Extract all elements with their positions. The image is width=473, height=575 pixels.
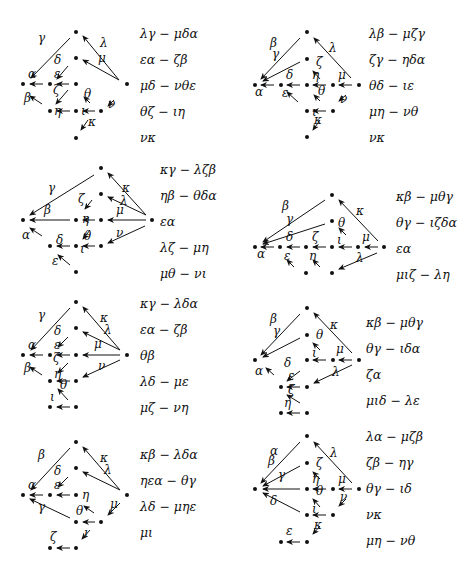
vertex-dot <box>279 411 283 415</box>
arrow-label: λ <box>104 463 112 477</box>
relation-text: ζα <box>366 367 381 382</box>
arrow-label: δ <box>286 230 293 244</box>
vertex-dot <box>305 385 309 389</box>
vertex-dot <box>74 353 78 357</box>
arrow-label: θ <box>84 87 91 101</box>
vertex-dot <box>99 244 103 248</box>
vertex-dot <box>74 244 78 248</box>
vertex-dot <box>305 306 309 310</box>
arrow-label: α <box>28 67 36 81</box>
vertex-dot <box>48 405 52 409</box>
arrow-label: μ <box>110 497 118 511</box>
arrow-label: ζ <box>53 83 60 97</box>
vertex-dot <box>305 358 309 362</box>
vertex-dot <box>279 385 283 389</box>
relation-text: λδ − με <box>140 374 189 389</box>
arrow-label: δ <box>54 53 61 67</box>
arrow <box>58 255 70 265</box>
vertex-dot <box>331 487 335 491</box>
vertex-dot <box>150 218 154 222</box>
vertex-dot <box>21 82 25 86</box>
arrow-label: ε <box>282 86 288 100</box>
arrow <box>287 92 298 102</box>
arrow-label: η <box>54 104 61 118</box>
vertex-dot <box>74 270 78 274</box>
quiver-graph <box>0 295 236 440</box>
vertex-dot <box>382 245 386 249</box>
vertex-dot <box>74 546 78 550</box>
arrow-label: ε <box>284 249 290 263</box>
vertex-dot <box>330 219 334 223</box>
arrow-label: θ <box>316 328 323 342</box>
vertex-dot <box>48 379 52 383</box>
relation-text: μζ − νη <box>140 400 188 415</box>
arrow-label: ν <box>116 226 123 240</box>
vertex-dot <box>74 300 78 304</box>
relation-text: λα − μζβ <box>366 429 423 444</box>
arrow-label: ν <box>340 92 347 106</box>
arrow-label: ζ <box>50 530 57 544</box>
arrow-label: μ <box>116 203 124 217</box>
arrow-label: α <box>28 338 36 352</box>
relation-text: εα − ζβ <box>140 322 188 337</box>
arrow-label: μ <box>338 472 346 486</box>
arrow-label: ε <box>54 478 60 492</box>
vertex-dot <box>99 192 103 196</box>
arrow <box>261 314 300 355</box>
vertex-dot <box>99 166 103 170</box>
arrow-label: ζ <box>316 55 323 69</box>
vertex-dot <box>125 493 129 497</box>
relation-text: ζγ − ηδα <box>369 52 425 67</box>
vertex-dot <box>48 493 52 497</box>
vertex-dot <box>74 520 78 524</box>
vertex-dot <box>99 109 103 113</box>
arrow-label: ζ <box>78 192 85 206</box>
vertex-dot <box>357 83 361 87</box>
arrow-label: η <box>82 488 89 502</box>
arrow-label: η <box>284 396 291 410</box>
arrow-label: α <box>22 228 30 242</box>
relation-text: λζ − μη <box>160 240 209 255</box>
arrow-label: ε <box>288 369 294 383</box>
vertex-dot <box>74 493 78 497</box>
arrow-label: λ <box>356 251 364 265</box>
vertex-dot <box>305 109 309 113</box>
arrow-label: β <box>44 203 51 217</box>
arrow <box>108 226 145 243</box>
arrow-label: κ <box>314 518 322 532</box>
arrow-label: λ <box>329 41 337 55</box>
arrow-label: λ <box>330 446 338 460</box>
vertex-dot <box>21 218 25 222</box>
relation-text: μθ − νι <box>160 266 207 281</box>
vertex-dot <box>304 271 308 275</box>
arrow-label: λ <box>332 365 340 379</box>
arrow-label: β <box>24 361 31 375</box>
arrow <box>81 120 88 130</box>
relation-text: θζ − ιη <box>140 104 185 119</box>
vertex-dot <box>21 353 25 357</box>
arrow-label: η <box>82 212 89 226</box>
vertex-dot <box>305 30 309 34</box>
vertex-dot <box>74 405 78 409</box>
relation-text: ηεα − θγ <box>140 473 196 488</box>
vertex-dot <box>331 83 335 87</box>
arrow-label: κ <box>356 204 364 218</box>
relation-text: θβ <box>140 348 155 363</box>
arrow-label: μ <box>362 230 370 244</box>
relation-text: μδ − νθε <box>140 78 196 93</box>
relation-text: μιδ − λε <box>366 393 420 408</box>
arrow-label: α <box>28 478 36 492</box>
arrow-label: ε <box>54 67 60 81</box>
vertex-dot <box>74 82 78 86</box>
vertex-dot <box>74 109 78 113</box>
vertex-dot <box>21 493 25 497</box>
arrow <box>31 38 70 78</box>
vertex-dot <box>48 353 52 357</box>
arrow-label: δ <box>56 233 63 247</box>
arrow-label: γ <box>38 500 45 514</box>
quiver-graph <box>236 0 472 145</box>
relation-text: θγ − ιδα <box>366 341 420 356</box>
vertex-dot <box>74 440 78 444</box>
arrow-label: γ <box>48 181 55 195</box>
vertex-dot <box>125 353 129 357</box>
